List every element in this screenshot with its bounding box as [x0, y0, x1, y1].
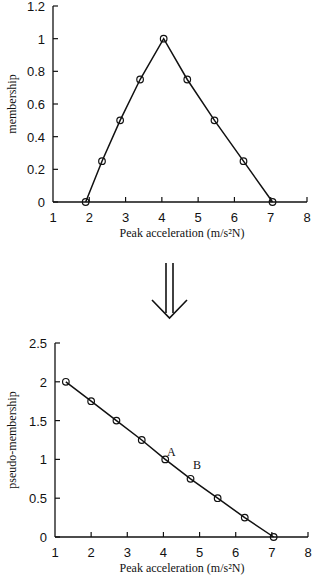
y-tick-label: 2.5: [29, 336, 47, 351]
bottom-y-axis-label: pseudo-membership: [5, 391, 19, 488]
bottom-series-line: [63, 379, 277, 541]
y-tick-label: 2: [40, 375, 47, 390]
x-tick-label: 5: [195, 210, 202, 225]
y-tick-label: 0.2: [27, 162, 45, 177]
top-x-axis-label: Peak acceleration (m/s²N): [120, 226, 245, 240]
x-tick-label: 7: [267, 210, 274, 225]
top-axes: 00.20.40.60.811.212345678: [27, 0, 311, 225]
x-tick-label: 4: [158, 210, 165, 225]
y-tick-label: 0.8: [27, 64, 45, 79]
bottom-x-axis-label: Peak acceleration (m/s²N): [120, 561, 245, 575]
figure: 00.20.40.60.811.212345678 membership Pea…: [0, 0, 320, 583]
x-tick-label: 3: [124, 545, 131, 560]
x-tick-label: 6: [232, 545, 239, 560]
y-tick-label: 0.6: [27, 97, 45, 112]
y-tick-label: 0.5: [29, 491, 47, 506]
x-tick-label: 1: [51, 545, 58, 560]
y-tick-label: 1: [38, 32, 45, 47]
y-tick-label: 0.4: [27, 130, 45, 145]
y-tick-label: 0: [38, 195, 45, 210]
x-tick-label: 8: [303, 210, 310, 225]
pseudo-membership-chart: 00.511.522.512345678 A B pseudo-membersh…: [5, 336, 312, 575]
x-tick-label: 7: [268, 545, 275, 560]
annotation-b: B: [193, 458, 201, 472]
x-tick-label: 2: [86, 210, 93, 225]
y-tick-label: 0: [40, 530, 47, 545]
annotation-a: A: [167, 445, 176, 459]
x-tick-label: 2: [88, 545, 95, 560]
y-tick-label: 1.2: [27, 0, 45, 14]
x-tick-label: 4: [160, 545, 167, 560]
x-tick-label: 8: [304, 545, 311, 560]
y-tick-label: 1: [40, 452, 47, 467]
x-tick-label: 5: [196, 545, 203, 560]
double-down-arrow-icon: [152, 263, 187, 318]
x-tick-label: 6: [231, 210, 238, 225]
x-tick-label: 3: [122, 210, 129, 225]
top-series-line: [82, 35, 275, 205]
x-tick-label: 1: [49, 210, 56, 225]
top-y-axis-label: membership: [5, 74, 19, 133]
y-tick-label: 1.5: [29, 414, 47, 429]
membership-chart: 00.20.40.60.811.212345678 membership Pea…: [5, 0, 311, 240]
